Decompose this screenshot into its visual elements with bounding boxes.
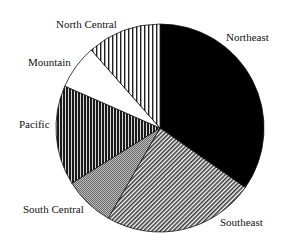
slice-label: South Central	[23, 203, 84, 215]
slice-label: Pacific	[19, 118, 50, 130]
slice-label: Southeast	[220, 216, 263, 228]
slice-label: Mountain	[28, 56, 71, 68]
pie-chart: NortheastSoutheastSouth CentralPacificMo…	[0, 0, 287, 246]
pie-slices	[56, 24, 264, 232]
slice-label: Northeast	[226, 31, 269, 43]
slice-label: North Central	[56, 18, 117, 30]
